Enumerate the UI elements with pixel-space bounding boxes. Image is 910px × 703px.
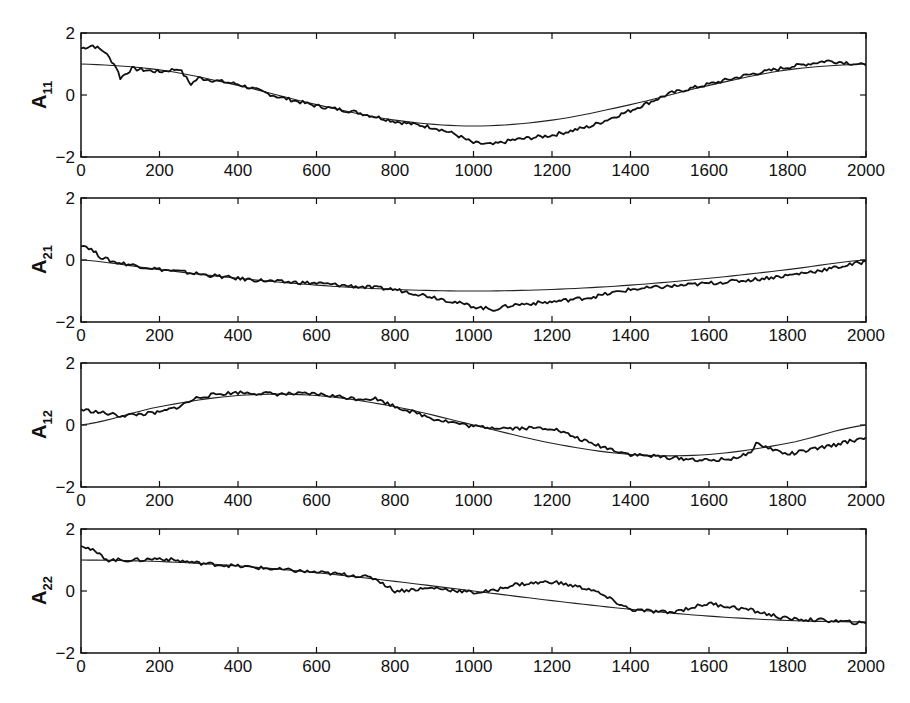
x-tick-label: 1200 xyxy=(533,161,571,180)
x-tick-label: 2000 xyxy=(847,657,885,676)
y-tick-label: 2 xyxy=(66,24,75,43)
y-tick-label: −2 xyxy=(56,148,75,167)
true-curve xyxy=(81,260,866,291)
y-tick-label: 2 xyxy=(66,354,75,373)
chart-figure: 0200400600800100012001400160018002000−20… xyxy=(0,0,910,703)
x-tick-label: 200 xyxy=(145,161,173,180)
x-tick-label: 800 xyxy=(381,491,409,510)
x-tick-label: 1800 xyxy=(769,657,807,676)
x-tick-label: 800 xyxy=(381,657,409,676)
panel-A11: 0200400600800100012001400160018002000−20… xyxy=(28,24,885,180)
x-tick-label: 1600 xyxy=(690,657,728,676)
x-tick-label: 1200 xyxy=(533,326,571,345)
x-tick-label: 2000 xyxy=(847,161,885,180)
panel-A12: 0200400600800100012001400160018002000−20… xyxy=(28,354,885,510)
x-tick-label: 1400 xyxy=(612,161,650,180)
y-tick-label: 2 xyxy=(66,520,75,539)
x-tick-label: 400 xyxy=(224,491,252,510)
x-tick-label: 2000 xyxy=(847,326,885,345)
true-curve xyxy=(81,394,866,456)
x-tick-label: 1200 xyxy=(533,657,571,676)
y-axis-label: A11 xyxy=(28,81,55,109)
x-tick-label: 600 xyxy=(302,657,330,676)
x-tick-label: 600 xyxy=(302,161,330,180)
y-tick-label: −2 xyxy=(56,644,75,663)
x-tick-label: 0 xyxy=(76,657,85,676)
x-tick-label: 1000 xyxy=(455,326,493,345)
x-tick-label: 400 xyxy=(224,161,252,180)
panel-A22: 0200400600800100012001400160018002000−20… xyxy=(28,520,885,676)
x-tick-label: 1400 xyxy=(612,657,650,676)
x-tick-label: 1200 xyxy=(533,491,571,510)
y-tick-label: 0 xyxy=(66,416,75,435)
x-tick-label: 400 xyxy=(224,326,252,345)
x-tick-label: 600 xyxy=(302,491,330,510)
x-tick-label: 1600 xyxy=(690,326,728,345)
estimate-curve xyxy=(81,45,866,144)
axes-box xyxy=(81,33,866,157)
estimate-curve xyxy=(81,546,866,624)
x-tick-label: 1600 xyxy=(690,491,728,510)
x-tick-label: 1000 xyxy=(455,161,493,180)
x-tick-label: 800 xyxy=(381,326,409,345)
y-axis-label: A22 xyxy=(28,576,55,605)
x-tick-label: 0 xyxy=(76,161,85,180)
x-tick-label: 400 xyxy=(224,657,252,676)
x-tick-label: 0 xyxy=(76,491,85,510)
x-tick-label: 1800 xyxy=(769,491,807,510)
x-tick-label: 200 xyxy=(145,326,173,345)
y-tick-label: 0 xyxy=(66,86,75,105)
x-tick-label: 0 xyxy=(76,326,85,345)
x-tick-label: 200 xyxy=(145,491,173,510)
x-tick-label: 2000 xyxy=(847,491,885,510)
x-tick-label: 800 xyxy=(381,161,409,180)
true-curve xyxy=(81,560,866,622)
y-tick-label: −2 xyxy=(56,313,75,332)
y-axis-label: A12 xyxy=(28,410,55,439)
x-tick-label: 200 xyxy=(145,657,173,676)
y-tick-label: 0 xyxy=(66,251,75,270)
x-tick-label: 1000 xyxy=(455,491,493,510)
estimate-curve xyxy=(81,391,866,461)
y-tick-label: −2 xyxy=(56,478,75,497)
x-tick-label: 1400 xyxy=(612,491,650,510)
y-tick-label: 0 xyxy=(66,582,75,601)
x-tick-label: 1800 xyxy=(769,161,807,180)
y-tick-label: 2 xyxy=(66,189,75,208)
x-tick-label: 1400 xyxy=(612,326,650,345)
x-tick-label: 1800 xyxy=(769,326,807,345)
x-tick-label: 600 xyxy=(302,326,330,345)
y-axis-label: A21 xyxy=(28,245,55,274)
estimate-curve xyxy=(81,246,866,311)
true-curve xyxy=(81,64,866,126)
axes-box xyxy=(81,198,866,322)
panel-A21: 0200400600800100012001400160018002000−20… xyxy=(28,189,885,345)
x-tick-label: 1600 xyxy=(690,161,728,180)
x-tick-label: 1000 xyxy=(455,657,493,676)
